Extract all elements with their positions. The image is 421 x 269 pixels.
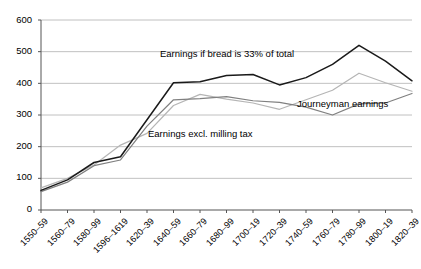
series-line-0: [41, 45, 412, 190]
series-annotation-journeyman: Journeyman earnings: [297, 98, 388, 109]
series-annotation-bread33: Earnings if bread is 33% of total: [160, 48, 294, 59]
series-annotation-milling-tax: Earnings excl. milling tax: [148, 128, 253, 139]
